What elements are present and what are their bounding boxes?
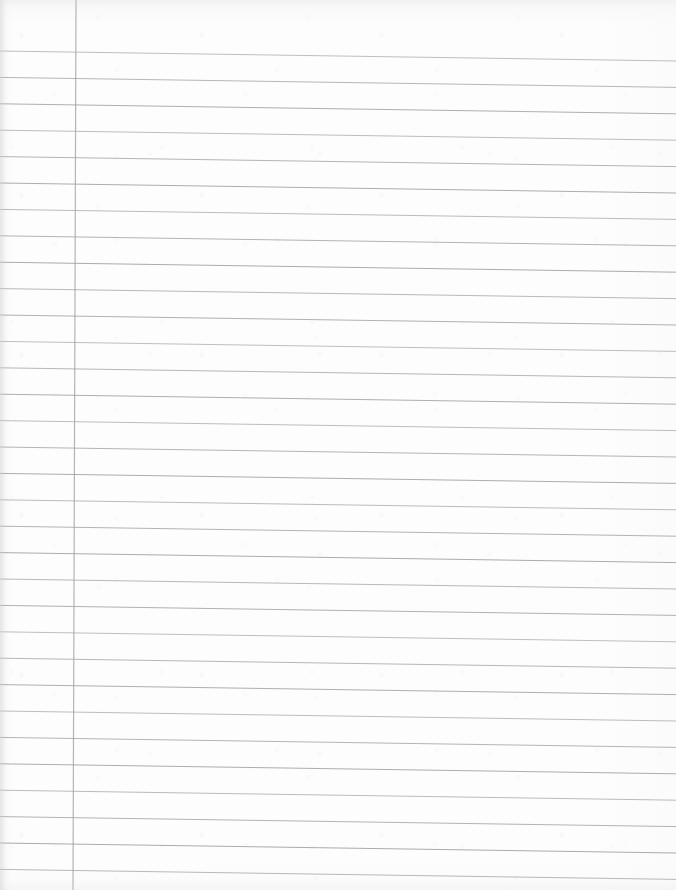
notebook-page bbox=[0, 0, 676, 890]
writing-area[interactable] bbox=[76, 51, 676, 890]
